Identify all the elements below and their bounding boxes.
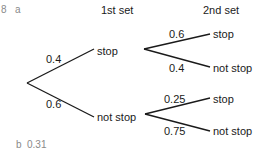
outcome-second-stop-stop: stop bbox=[213, 28, 234, 40]
outcome-second-not-stop-stop: stop bbox=[213, 93, 234, 105]
part-a-label: a bbox=[15, 4, 21, 16]
outcome-first-not-stop: not stop bbox=[97, 111, 136, 123]
header-second-set: 2nd set bbox=[203, 4, 239, 16]
outcome-first-stop: stop bbox=[97, 45, 118, 57]
prob-first-not-stop: 0.6 bbox=[46, 98, 61, 110]
header-first-set: 1st set bbox=[101, 4, 133, 16]
prob-first-stop: 0.4 bbox=[46, 53, 61, 65]
outcome-second-not-stop-not-stop: not stop bbox=[213, 125, 252, 137]
part-b-answer: 0.31 bbox=[27, 139, 46, 150]
part-b-label: b bbox=[16, 139, 22, 150]
question-number: 8 bbox=[1, 4, 7, 16]
prob-second-not-stop-not-stop: 0.75 bbox=[164, 125, 185, 137]
prob-second-not-stop-stop: 0.25 bbox=[164, 93, 185, 105]
prob-second-stop-stop: 0.6 bbox=[169, 28, 184, 40]
outcome-second-stop-not-stop: not stop bbox=[213, 62, 252, 74]
prob-second-stop-not-stop: 0.4 bbox=[169, 62, 184, 74]
